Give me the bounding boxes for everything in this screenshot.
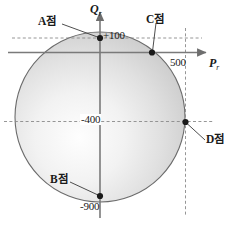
point-marker-d (182, 119, 188, 125)
tick-label-top: +100 (103, 30, 125, 41)
axis-label-p: Pr (209, 57, 219, 72)
figure-canvas: Qr Pr +100 -400 500 -900 A점 B점 C점 D점 (0, 0, 235, 226)
leader-line-d (187, 124, 205, 141)
axis-label-q: Qr (90, 3, 102, 18)
tick-label-right: 500 (170, 57, 186, 68)
leader-line-c (153, 23, 157, 52)
point-label-d: D점 (206, 134, 225, 146)
point-label-b: B점 (50, 174, 69, 186)
point-marker-b (97, 193, 103, 199)
point-label-c: C점 (146, 14, 165, 26)
tick-label-bottom: -900 (80, 201, 99, 212)
point-label-a: A점 (38, 16, 57, 28)
point-marker-c (149, 49, 155, 55)
tick-label-left-mid: -400 (80, 114, 101, 125)
